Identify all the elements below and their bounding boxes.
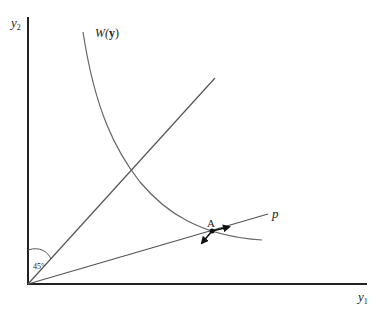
angle-arc — [28, 249, 51, 259]
curve-label: W(y) — [95, 26, 119, 41]
45-degree-line — [28, 78, 215, 284]
y1-label-sub: 1 — [364, 297, 368, 306]
y1-axis-label: y1 — [358, 289, 368, 306]
angle-label: 45° — [33, 262, 44, 271]
p-line-label: p — [272, 206, 279, 222]
curve-label-prefix: W( — [95, 26, 109, 40]
curve-label-suffix: ) — [115, 26, 119, 40]
welfare-contour-curve — [83, 32, 262, 240]
y2-axis-label: y2 — [11, 15, 21, 32]
diagram-canvas — [0, 0, 382, 313]
point-a-label: A — [207, 217, 215, 229]
price-ray-p — [28, 214, 268, 284]
y2-label-sub: 2 — [17, 23, 21, 32]
